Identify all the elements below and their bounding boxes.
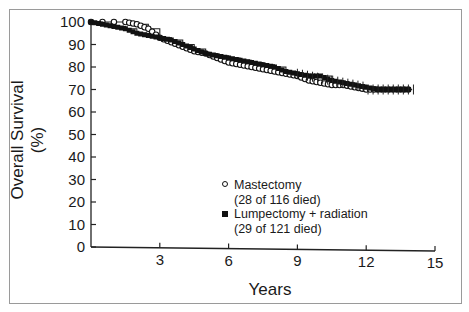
x-tick-label: 15 (427, 254, 444, 271)
legend: Mastectomy (28 of 116 died) Lumpectomy +… (222, 178, 368, 236)
x-tick-label: 12 (358, 253, 375, 270)
legend-item-lumpectomy: Lumpectomy + radiation (222, 207, 368, 222)
y-tick-label: 10 (68, 216, 85, 233)
y-tick-label: 80 (68, 58, 85, 75)
y-tick-label: 50 (68, 126, 85, 143)
y-tick-label: 70 (68, 81, 85, 98)
y-tick-label: 100 (60, 13, 85, 30)
y-tick-label: 30 (68, 171, 85, 188)
x-tick-label: 3 (156, 251, 164, 268)
survival-plot: 01020304050607080901003691215 (0, 0, 469, 312)
x-axis-label: Years (230, 280, 310, 300)
x-axis-line (91, 247, 435, 251)
y-tick-label: 60 (68, 103, 85, 120)
legend-note-mastectomy: (28 of 116 died) (222, 193, 368, 208)
legend-label-mastectomy: Mastectomy (234, 178, 301, 193)
x-tick-label: 6 (224, 252, 232, 269)
y-tick-label: 90 (68, 36, 85, 53)
legend-note-lumpectomy: (29 of 121 died) (222, 222, 368, 237)
legend-label-lumpectomy: Lumpectomy + radiation (234, 207, 368, 222)
legend-item-mastectomy: Mastectomy (222, 178, 368, 193)
y-axis-label: Overall Survival (%) (8, 70, 48, 210)
y-tick-label: 0 (77, 238, 85, 255)
y-tick-label: 20 (68, 193, 85, 210)
y-tick-label: 40 (68, 148, 85, 165)
open-circle-marker-icon (222, 181, 228, 187)
x-tick-label: 9 (293, 252, 301, 269)
filled-square-marker-icon (222, 211, 228, 217)
